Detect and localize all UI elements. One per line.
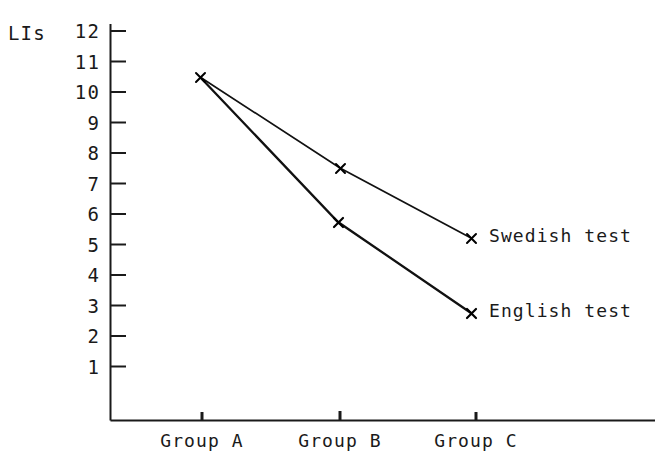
marker-english-group-b [334, 218, 343, 227]
y-tick-label-11: 11 [38, 51, 100, 73]
x-axis-ticks [202, 411, 476, 420]
y-tick-label-6: 6 [38, 203, 100, 225]
y-tick-label-3: 3 [38, 295, 100, 317]
chart-figure: LIs 12 11 10 9 8 7 6 5 4 3 2 1 Group A G… [0, 0, 659, 471]
series-line-swedish-test [200, 77, 471, 238]
y-tick-label-5: 5 [38, 234, 100, 256]
x-tick-label-group-b: Group B [265, 430, 415, 451]
legend-label-english-test: English test [489, 300, 632, 321]
marker-swedish-group-a [196, 73, 205, 82]
y-tick-label-2: 2 [38, 325, 100, 347]
legend-label-swedish-test: Swedish test [489, 225, 632, 246]
y-tick-label-10: 10 [38, 81, 100, 103]
y-tick-label-1: 1 [38, 356, 100, 378]
marker-swedish-group-b [336, 164, 345, 173]
x-tick-label-group-c: Group C [401, 430, 551, 451]
y-axis-ticks [110, 31, 126, 367]
y-tick-label-12: 12 [38, 20, 100, 42]
x-tick-label-group-a: Group A [127, 430, 277, 451]
series-line-english-test [200, 77, 471, 313]
y-tick-label-9: 9 [38, 112, 100, 134]
marker-english-group-c [467, 309, 476, 318]
y-tick-label-8: 8 [38, 142, 100, 164]
y-tick-label-4: 4 [38, 264, 100, 286]
marker-swedish-group-c [467, 234, 476, 243]
y-tick-label-7: 7 [38, 173, 100, 195]
